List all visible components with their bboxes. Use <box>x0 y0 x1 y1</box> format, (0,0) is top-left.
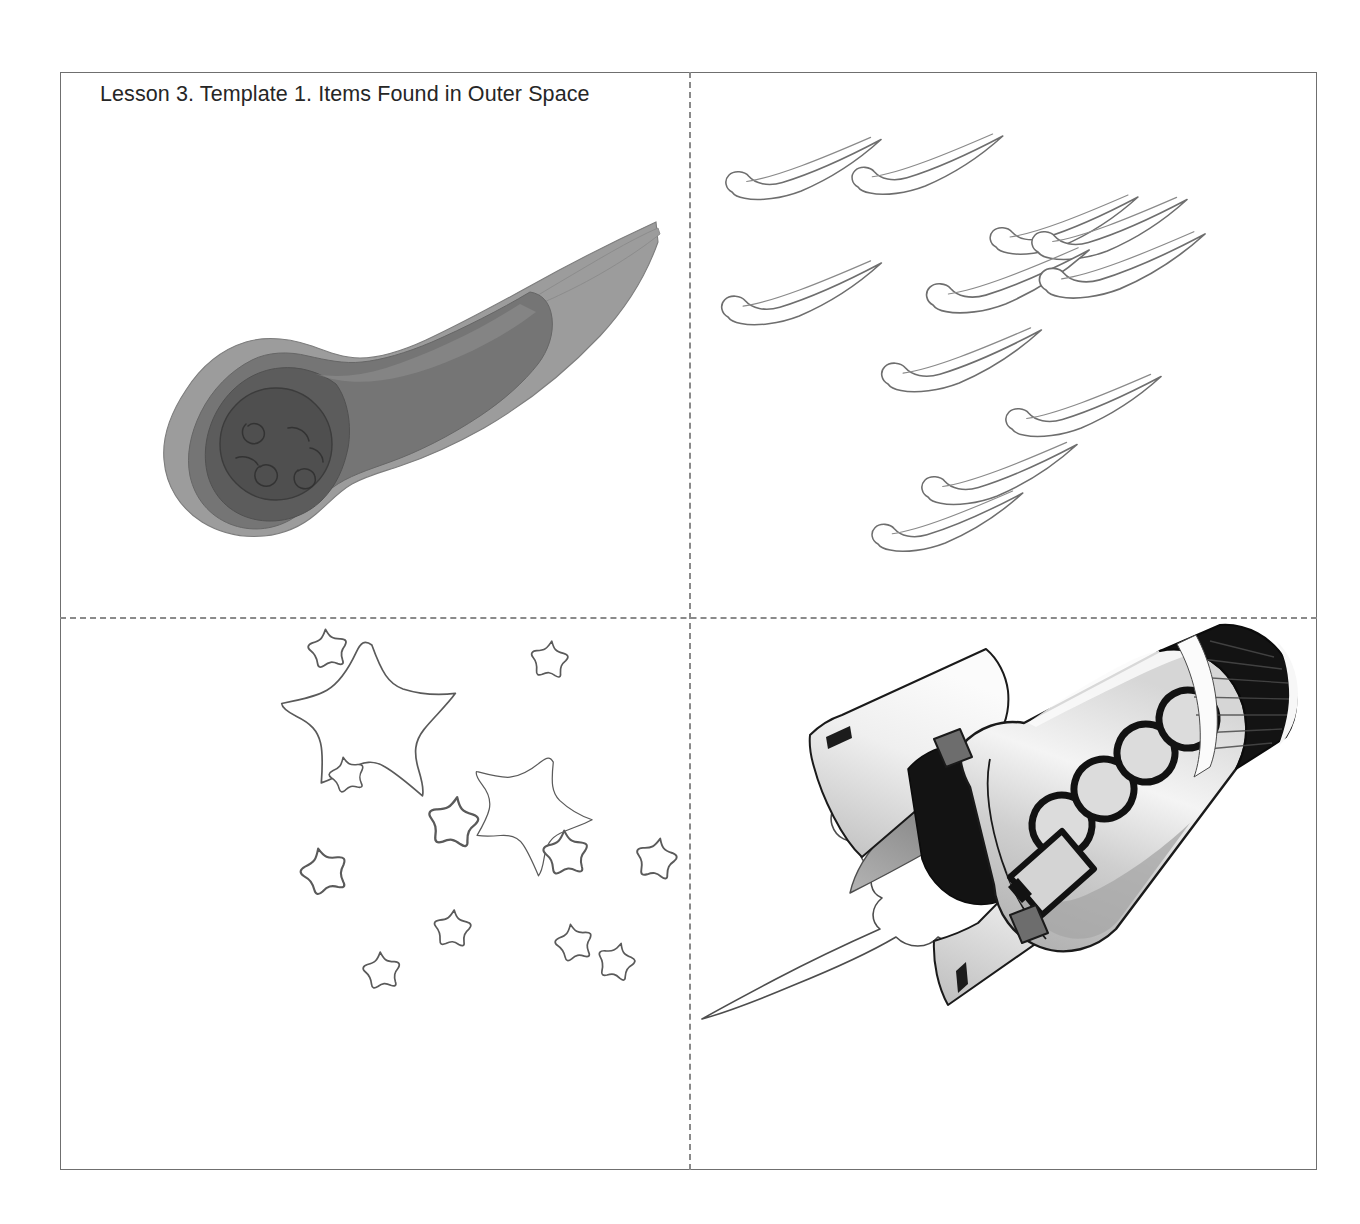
star-small-item <box>433 909 472 946</box>
star-large-item <box>449 735 608 887</box>
stars-illustration <box>60 619 689 1170</box>
star-small-item <box>633 835 679 880</box>
star-small-item <box>595 939 639 982</box>
quadrant-rocket <box>690 619 1317 1170</box>
meteor-item <box>1006 374 1161 436</box>
quadrant-comet <box>60 72 689 617</box>
rocket-illustration <box>690 619 1317 1170</box>
meteor-item <box>722 261 882 325</box>
worksheet-page: Lesson 3. Template 1. Items Found in Out… <box>0 0 1360 1224</box>
comet-illustration <box>60 72 689 617</box>
meteor-item <box>1032 197 1187 259</box>
meteor-item <box>922 442 1077 504</box>
star-small-item <box>362 950 402 989</box>
star-small-item <box>552 921 595 963</box>
quadrant-stars <box>60 619 689 1170</box>
star-small-item <box>296 842 352 897</box>
star-large-item <box>278 636 463 805</box>
fold-line-horizontal <box>60 617 1317 619</box>
meteor-shower-illustration <box>690 72 1317 617</box>
meteor-item <box>882 328 1042 392</box>
fold-line-vertical <box>689 72 691 1170</box>
star-small-item <box>306 627 349 669</box>
star-small-item <box>426 794 481 848</box>
quadrant-meteors <box>690 72 1317 617</box>
star-small-item <box>530 639 570 678</box>
